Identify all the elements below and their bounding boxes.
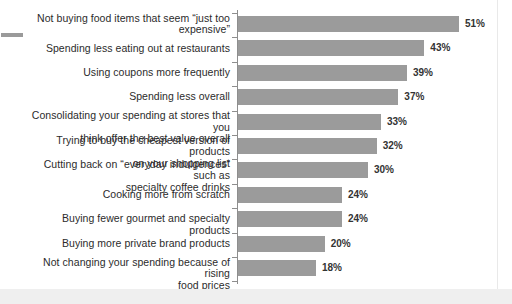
bar-row: Using coupons more frequently39% <box>0 61 497 85</box>
bar-row: Spending less overall37% <box>0 85 497 109</box>
axis-tick <box>232 13 237 14</box>
category-label: Buying more private brand products <box>24 238 230 250</box>
axis-tick <box>232 159 237 160</box>
bar-value-label: 37% <box>404 91 424 102</box>
bar-value-label: 51% <box>465 18 485 29</box>
bar <box>238 89 398 105</box>
axis-tick <box>232 257 237 258</box>
category-label-line: Trying to buy the cheapest version of pr… <box>24 135 230 158</box>
bar-row: Buying more private brand products20% <box>0 232 497 256</box>
bar-row: Cooking more from scratch24% <box>0 183 497 207</box>
category-label: Not changing your spending because of ri… <box>24 257 230 292</box>
bar-row: Buying fewer gourmet and specialty produ… <box>0 207 497 231</box>
bar-row: Spending less eating out at restaurants4… <box>0 36 497 60</box>
bar <box>238 260 316 276</box>
bar-value-label: 20% <box>331 238 351 249</box>
category-label: Not buying food items that seem “just to… <box>24 13 230 36</box>
axis-tick <box>232 37 237 38</box>
category-label-line: Spending less eating out at restaurants <box>24 43 230 55</box>
axis-tick <box>232 86 237 87</box>
bottom-band <box>0 289 512 304</box>
bar <box>238 40 424 56</box>
axis-tick <box>232 135 237 136</box>
bar-value-label: 39% <box>413 67 433 78</box>
category-label-line: Using coupons more frequently <box>24 67 230 79</box>
category-label: Spending less overall <box>24 91 230 103</box>
category-label: Cooking more from scratch <box>24 189 230 201</box>
bar-value-label: 30% <box>374 164 394 175</box>
bar-value-label: 24% <box>348 189 368 200</box>
bar-row: Trying to buy the cheapest version of pr… <box>0 134 497 158</box>
bar <box>238 187 342 203</box>
axis-tick <box>232 208 237 209</box>
category-label-line: Spending less overall <box>24 91 230 103</box>
bar-value-label: 24% <box>348 213 368 224</box>
category-label-line: Consolidating your spending at stores th… <box>24 110 230 133</box>
bar-value-label: 43% <box>430 42 450 53</box>
axis-tick <box>232 62 237 63</box>
category-label-line: Cutting back on “everyday indulgences” s… <box>24 159 230 182</box>
axis-tick <box>232 111 237 112</box>
bar-row: Not buying food items that seem “just to… <box>0 12 497 36</box>
bar-rows: Not buying food items that seem “just to… <box>0 0 497 289</box>
bar-value-label: 33% <box>387 116 407 127</box>
bar-chart: Not buying food items that seem “just to… <box>0 0 512 304</box>
bar <box>238 65 407 81</box>
axis-tick <box>232 281 237 282</box>
category-label: Spending less eating out at restaurants <box>24 43 230 55</box>
axis-tick <box>232 233 237 234</box>
bar <box>238 236 325 252</box>
bar <box>238 16 459 32</box>
bar-row: Cutting back on “everyday indulgences” s… <box>0 158 497 182</box>
plot-area: Not buying food items that seem “just to… <box>0 0 497 289</box>
bar-value-label: 18% <box>322 262 342 273</box>
category-label-line: Not changing your spending because of ri… <box>24 257 230 280</box>
bar <box>238 114 381 130</box>
bar <box>238 211 342 227</box>
bar <box>238 138 377 154</box>
bar <box>238 162 368 178</box>
bar-row: Not changing your spending because of ri… <box>0 256 497 280</box>
axis-tick <box>232 184 237 185</box>
right-border-rule <box>497 0 498 290</box>
category-label-line: Buying more private brand products <box>24 238 230 250</box>
bar-value-label: 32% <box>383 140 403 151</box>
category-label-line: Cooking more from scratch <box>24 189 230 201</box>
category-label: Using coupons more frequently <box>24 67 230 79</box>
bar-row: Consolidating your spending at stores th… <box>0 110 497 134</box>
category-label-line: expensive” <box>24 24 230 36</box>
